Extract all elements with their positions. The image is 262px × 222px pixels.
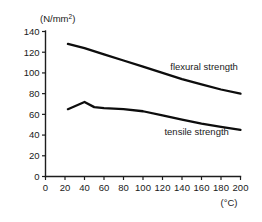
series-label-tensile-strength: tensile strength [164, 126, 228, 137]
y-tick-label: 140 [24, 26, 40, 37]
svg-text:(N/mm2): (N/mm2) [40, 13, 75, 25]
y-tick-label: 80 [29, 88, 40, 99]
x-tick-label: 20 [60, 182, 71, 193]
x-tick-label: 40 [79, 182, 90, 193]
strength-vs-temperature-chart: (N/mm2) 020406080100120140 0204060801001… [0, 0, 262, 222]
y-tick-label: 0 [34, 171, 39, 182]
x-tick-label: 200 [233, 182, 249, 193]
x-tick-label: 80 [118, 182, 129, 193]
y-axis-unit-main: (N/mm [40, 13, 69, 24]
x-tick-label: 160 [194, 182, 210, 193]
y-tick-label: 100 [24, 67, 40, 78]
x-axis-unit-label: (°C) [221, 197, 238, 208]
x-tick-label: 120 [155, 182, 171, 193]
y-axis-unit-tail: ) [72, 13, 75, 24]
y-tick-label: 20 [29, 150, 40, 161]
x-tick-label: 100 [135, 182, 151, 193]
series-label-flexural-strength: flexural strength [170, 61, 238, 72]
y-tick-label: 60 [29, 109, 40, 120]
data-series-group [68, 44, 241, 130]
series-annotations: flexural strengthtensile strength [164, 61, 237, 137]
x-tick-label: 140 [174, 182, 190, 193]
x-tick-label: 60 [99, 182, 110, 193]
x-tick-label: 0 [43, 182, 48, 193]
y-tick-label: 120 [24, 47, 40, 58]
x-tick-label: 180 [213, 182, 229, 193]
y-axis-ticks: 020406080100120140 [24, 26, 46, 182]
y-axis-unit-label: (N/mm2) [40, 13, 75, 25]
x-axis-ticks: 020406080100120140160180200 [43, 177, 249, 193]
y-tick-label: 40 [29, 129, 40, 140]
chart-plot-area: (N/mm2) 020406080100120140 0204060801001… [0, 0, 262, 222]
